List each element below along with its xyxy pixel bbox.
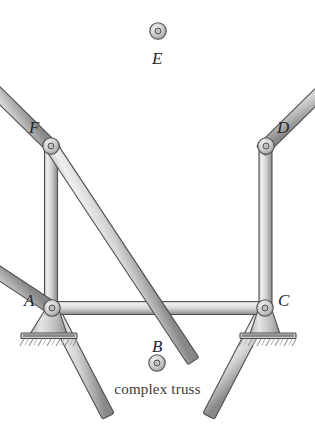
member-A-F <box>45 146 58 310</box>
joint-pin-F <box>43 138 59 154</box>
joint-pin-E <box>150 23 166 39</box>
member-C-D <box>259 146 272 310</box>
joint-pin-B <box>149 355 165 371</box>
joint-pin-D <box>258 138 274 154</box>
figure-caption: complex truss <box>0 381 315 398</box>
complex-truss-figure: A B C D E F complex truss <box>0 0 315 426</box>
joint-pin-C <box>257 300 273 316</box>
joint-pin-A <box>44 300 60 316</box>
joint-label-E: E <box>152 50 162 67</box>
joint-label-D: D <box>277 119 289 136</box>
joint-label-A: A <box>24 292 34 309</box>
joint-label-C: C <box>278 292 289 309</box>
joint-label-F: F <box>29 119 39 136</box>
joint-label-B: B <box>152 338 162 355</box>
